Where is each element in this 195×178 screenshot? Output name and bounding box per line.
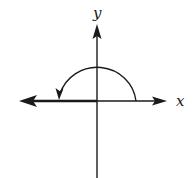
y-axis-label: y [92,4,102,22]
x-axis-label: x [176,92,185,110]
rotation-arrow-icon [56,88,64,100]
angle-diagram: x y [0,0,195,178]
rotation-arc [60,67,136,101]
